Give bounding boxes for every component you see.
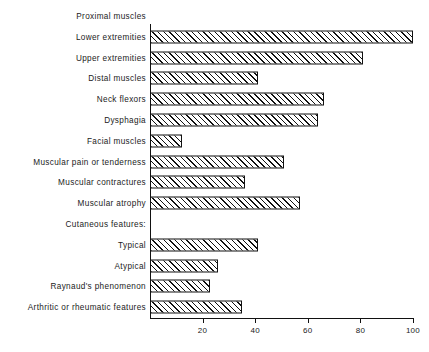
chart-bar-row: Arthritic or rheumatic features [0, 295, 429, 319]
category-label: Muscular atrophy [78, 199, 146, 208]
category-label: Neck flexors [97, 95, 146, 104]
category-label: Raynaud's phenomenon [50, 282, 146, 291]
x-tick [413, 318, 414, 323]
x-tick [308, 318, 309, 323]
group-header-label: Proximal muscles [76, 12, 146, 21]
chart-rows: Proximal musclesLower extremitiesUpper e… [0, 0, 429, 318]
bar-track [150, 176, 245, 189]
bar-track [150, 259, 218, 272]
bar-track [150, 51, 363, 64]
bar-track [150, 134, 182, 147]
bar [150, 30, 413, 43]
x-tick [203, 318, 204, 323]
category-label: Muscular pain or tenderness [33, 157, 146, 166]
y-axis-line [150, 24, 151, 318]
x-tick-label: 60 [303, 326, 313, 335]
bar [150, 114, 318, 127]
bar [150, 280, 210, 293]
bar [150, 51, 363, 64]
bar-track [150, 280, 210, 293]
bar-track [150, 197, 300, 210]
category-label: Distal muscles [88, 74, 146, 83]
bar [150, 134, 182, 147]
x-tick [255, 318, 256, 323]
bar [150, 197, 300, 210]
category-label: Dysphagia [104, 116, 146, 125]
bar [150, 238, 258, 251]
category-label: Facial muscles [87, 136, 146, 145]
x-tick-label: 40 [250, 326, 260, 335]
x-tick-label: 100 [406, 326, 420, 335]
bar-chart-figure: Proximal musclesLower extremitiesUpper e… [0, 0, 429, 352]
category-label: Arthritic or rheumatic features [28, 303, 146, 312]
bar-track [150, 238, 258, 251]
x-tick-label: 80 [356, 326, 366, 335]
bar [150, 301, 242, 314]
bar-track [150, 301, 242, 314]
group-header-label: Cutaneous features: [66, 220, 146, 229]
bar [150, 259, 218, 272]
bar [150, 155, 284, 168]
category-label: Lower extremities [76, 32, 146, 41]
category-label: Upper extremities [76, 53, 146, 62]
bar-track [150, 114, 318, 127]
category-label: Muscular contractures [58, 178, 146, 187]
bar [150, 72, 258, 85]
bar-track [150, 155, 284, 168]
bar-track [150, 30, 413, 43]
bar-track [150, 93, 324, 106]
bar-track [150, 72, 258, 85]
x-tick-label: 20 [198, 326, 208, 335]
bar [150, 93, 324, 106]
x-tick [360, 318, 361, 323]
category-label: Atypical [115, 261, 146, 270]
bar [150, 176, 245, 189]
category-label: Typical [118, 240, 146, 249]
x-axis-line [150, 318, 413, 319]
